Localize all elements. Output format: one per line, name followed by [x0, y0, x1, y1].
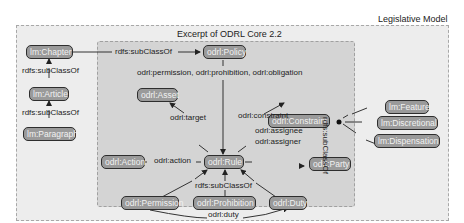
label-chapter-policy: rdfs:subClassOf [115, 47, 172, 56]
node-odrl-action: odrl:Action [101, 155, 145, 169]
node-lm-chapter: lm:Chapter [26, 45, 73, 59]
node-lm-dispensation: lm:Dispensation [374, 134, 440, 148]
node-odrl-asset: odrl:Asset [137, 88, 178, 102]
node-lm-feature: lm:Feature [385, 100, 429, 114]
label-rule-assignee: odrl:assignee [255, 126, 303, 135]
label-rule-assigner: odrl:assigner [255, 137, 301, 146]
label-article-subclassof: rdfs:subClassOf [22, 66, 79, 75]
node-lm-article: lm:Article [29, 87, 69, 101]
label-rule-constraint: odrl:constraint [238, 111, 288, 120]
node-odrl-permission: odrl:Permission [121, 196, 179, 210]
label-rule-action: odrl:action [154, 156, 191, 165]
node-odrl-rule: odrl:Rule [204, 155, 244, 169]
label-paragraph-subclassof: rdfs:subClassOf [22, 108, 79, 117]
node-odrl-duty: odrl:Duty [269, 196, 307, 210]
node-lm-discretional: lm:Discretional [377, 116, 438, 130]
node-lm-paragraph: lm:Paragraph [23, 127, 76, 141]
node-odrl-party: odrl:Party [309, 157, 351, 171]
label-lm-constraint-subclassof: rdfs:subClassOf [321, 117, 330, 174]
label-subtypes-rule: rdfs:subClassOf [195, 181, 252, 190]
label-policy-rule: odrl:permission, odrl:prohibition, odrl:… [137, 68, 302, 77]
label-permission-duty: odrl:duty [208, 210, 239, 219]
node-odrl-policy: odrl:Policy [203, 45, 246, 59]
node-odrl-prohibition: odrl:Prohibition [193, 196, 256, 210]
label-rule-asset: odrl:target [170, 113, 206, 122]
